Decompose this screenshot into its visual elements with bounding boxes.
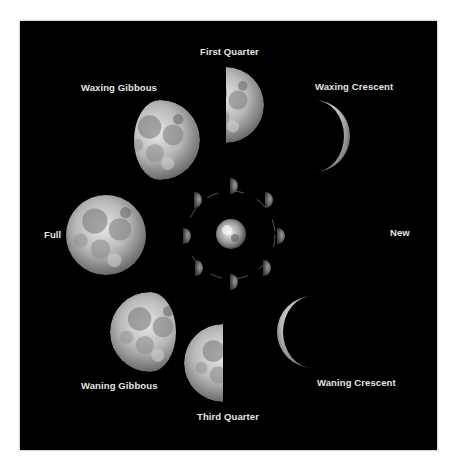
label-full: Full: [44, 229, 61, 240]
waning-gibbous-moon-icon: [110, 292, 190, 372]
label-waning-gibbous: Waning Gibbous: [81, 380, 158, 391]
label-new: New: [390, 227, 410, 238]
moon-phases-graphic: [0, 0, 456, 476]
waning-crescent-moon-icon: [277, 296, 313, 368]
label-waning-crescent: Waning Crescent: [317, 377, 396, 388]
third-quarter-moon-icon: [184, 324, 262, 402]
full-moon-icon: [66, 195, 146, 275]
label-waxing-gibbous: Waxing Gibbous: [81, 82, 157, 93]
orbit-diagram: [183, 178, 285, 290]
label-third-quarter: Third Quarter: [197, 411, 259, 422]
label-first-quarter: First Quarter: [200, 46, 259, 57]
waxing-gibbous-moon-icon: [120, 100, 200, 180]
label-waxing-crescent: Waxing Crescent: [315, 81, 393, 92]
earth-icon: [216, 219, 246, 249]
waxing-crescent-moon-icon: [314, 100, 350, 172]
first-quarter-moon-icon: [188, 67, 264, 143]
